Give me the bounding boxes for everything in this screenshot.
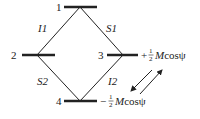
transition-I2-label: I2 — [107, 75, 118, 87]
level-3-energy: Mcosψ — [154, 49, 186, 61]
transition-S1-label: S1 — [106, 22, 117, 34]
level-4-label: 4 — [56, 95, 62, 107]
level-4-energy: Mcosψ — [114, 95, 146, 107]
fraction-den: 2 — [149, 55, 153, 63]
level-3-sign: + — [141, 49, 147, 61]
energy-level-diagram: 1 2 3 4 I1 S1 S2 I2 + 1 2 Mcosψ − 1 2 Mc… — [0, 0, 200, 119]
arrow-up-icon — [140, 70, 162, 94]
transition-I1-label: I1 — [37, 22, 47, 34]
level-2-label: 2 — [11, 49, 17, 61]
level-1-label: 1 — [56, 1, 62, 13]
arrow-down-icon — [131, 70, 152, 91]
level-3-label: 3 — [98, 49, 104, 61]
fraction-num: 1 — [149, 47, 153, 55]
fraction-den-4: 2 — [109, 101, 113, 109]
transition-S2-label: S2 — [37, 75, 49, 87]
fraction-num-4: 1 — [109, 93, 113, 101]
level-4-sign: − — [100, 95, 106, 107]
